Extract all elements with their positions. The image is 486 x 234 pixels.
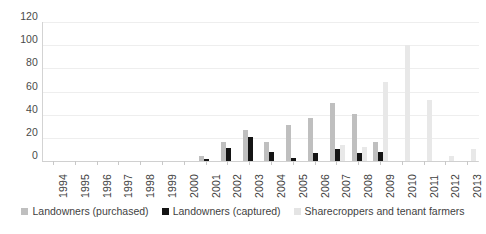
bar-group xyxy=(152,22,174,161)
bar-group xyxy=(43,22,65,161)
x-tick-label: 2008 xyxy=(363,174,374,198)
legend-swatch-icon xyxy=(162,208,169,215)
x-tick-label: 2007 xyxy=(341,174,352,198)
bar-group xyxy=(283,22,305,161)
legend-item[interactable]: Landowners (captured) xyxy=(162,205,281,217)
bar xyxy=(383,82,388,161)
legend-label: Landowners (captured) xyxy=(173,205,281,217)
x-tick-label: 1999 xyxy=(167,174,178,198)
bar-group xyxy=(326,22,348,161)
x-tick xyxy=(118,161,119,165)
x-tick xyxy=(97,161,98,165)
x-tick-label: 1994 xyxy=(58,174,69,198)
bar-group xyxy=(348,22,370,161)
x-tick xyxy=(424,161,425,165)
x-tick xyxy=(380,161,381,165)
x-tick xyxy=(227,161,228,165)
legend-swatch-icon xyxy=(21,208,28,215)
x-tick xyxy=(315,161,316,165)
bar-chart: 020406080100120 199419951996199719981999… xyxy=(0,0,486,234)
x-tick xyxy=(162,161,163,165)
bar xyxy=(362,147,367,161)
y-axis: 020406080100120 xyxy=(0,16,38,162)
x-tick-label: 2012 xyxy=(450,174,461,198)
x-tick-label: 1996 xyxy=(102,174,113,198)
legend-item[interactable]: Sharecroppers and tenant farmers xyxy=(294,205,465,217)
y-tick-label: 100 xyxy=(0,34,38,45)
bar-group xyxy=(305,22,327,161)
x-axis-labels: 1994199519961997199819992000200120022003… xyxy=(42,166,478,200)
x-tick xyxy=(140,161,141,165)
y-tick-label: 120 xyxy=(0,11,38,22)
bar-group xyxy=(196,22,218,161)
bar-group xyxy=(392,22,414,161)
bar-group xyxy=(65,22,87,161)
x-tick-label: 2003 xyxy=(254,174,265,198)
y-tick-label: 40 xyxy=(0,103,38,114)
bar-group xyxy=(435,22,457,161)
y-tick-label: 80 xyxy=(0,57,38,68)
x-tick-label: 2005 xyxy=(298,174,309,198)
bar-group xyxy=(261,22,283,161)
x-tick xyxy=(358,161,359,165)
x-tick-label: 2009 xyxy=(385,174,396,198)
bar xyxy=(269,152,274,161)
bar xyxy=(248,137,253,161)
bar xyxy=(226,148,231,161)
x-tick-label: 2002 xyxy=(232,174,243,198)
x-tick-label: 2006 xyxy=(320,174,331,198)
bar xyxy=(427,100,432,161)
legend-item[interactable]: Landowners (purchased) xyxy=(21,205,148,217)
legend-label: Landowners (purchased) xyxy=(32,205,148,217)
x-tick-label: 2013 xyxy=(472,174,483,198)
plot-wrapper: 020406080100120 199419951996199719981999… xyxy=(0,0,486,170)
x-axis-ticks xyxy=(42,161,478,165)
x-tick-label: 2010 xyxy=(407,174,418,198)
bar xyxy=(313,153,318,161)
x-tick xyxy=(184,161,185,165)
x-tick xyxy=(75,161,76,165)
chart-legend: Landowners (purchased)Landowners (captur… xyxy=(0,205,486,217)
bar-group xyxy=(414,22,436,161)
x-tick xyxy=(206,161,207,165)
bars-layer xyxy=(43,22,479,161)
bar-group xyxy=(370,22,392,161)
bar-group xyxy=(87,22,109,161)
bar xyxy=(405,45,410,161)
x-tick xyxy=(53,161,54,165)
x-tick-label: 1998 xyxy=(145,174,156,198)
bar-group xyxy=(130,22,152,161)
x-tick xyxy=(293,161,294,165)
y-tick-label: 60 xyxy=(0,80,38,91)
x-tick-label: 1997 xyxy=(123,174,134,198)
plot-area xyxy=(42,22,479,161)
x-tick xyxy=(271,161,272,165)
y-tick-label: 0 xyxy=(0,150,38,161)
bar-group xyxy=(239,22,261,161)
x-tick xyxy=(249,161,250,165)
bar-group xyxy=(457,22,479,161)
bar-group xyxy=(108,22,130,161)
x-tick-label: 2011 xyxy=(429,175,440,198)
x-tick xyxy=(402,161,403,165)
bar-group xyxy=(174,22,196,161)
bar xyxy=(286,125,291,161)
x-tick xyxy=(336,161,337,165)
bar-group xyxy=(217,22,239,161)
legend-swatch-icon xyxy=(294,208,301,215)
bar xyxy=(471,149,476,161)
x-tick-label: 2004 xyxy=(276,174,287,198)
x-tick-label: 2000 xyxy=(189,174,200,198)
bar xyxy=(340,145,345,161)
y-tick-label: 20 xyxy=(0,126,38,137)
x-tick-label: 1995 xyxy=(80,174,91,198)
legend-label: Sharecroppers and tenant farmers xyxy=(305,205,465,217)
x-tick xyxy=(467,161,468,165)
x-tick-label: 2001 xyxy=(211,174,222,198)
x-tick xyxy=(445,161,446,165)
